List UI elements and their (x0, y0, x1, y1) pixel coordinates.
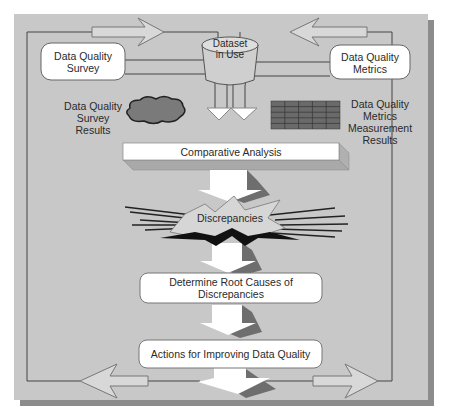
metrics-line2: Metrics (330, 63, 410, 75)
survey-results-line2: Survey (58, 112, 128, 124)
survey-line1: Data Quality (41, 50, 125, 62)
comparative-analysis-label: Comparative Analysis (123, 146, 339, 158)
dataset-label: Dataset in Use (202, 38, 258, 60)
survey-line2: Survey (41, 62, 125, 74)
metrics-results-line1: Data Quality (345, 98, 415, 110)
root-causes-label: Determine Root Causes of Discrepancies (140, 276, 322, 300)
dataset-line1: Dataset (202, 38, 258, 49)
metrics-results-line4: Results (345, 134, 415, 146)
root-causes-line2: Discrepancies (140, 288, 322, 300)
metrics-results-label: Data Quality Metrics Measurement Results (345, 98, 415, 146)
metrics-line1: Data Quality (330, 51, 410, 63)
metrics-results-grid-icon (271, 101, 340, 129)
root-causes-line1: Determine Root Causes of (140, 276, 322, 288)
actions-label: Actions for Improving Data Quality (139, 348, 322, 360)
survey-results-line1: Data Quality (58, 100, 128, 112)
survey-results-line3: Results (58, 124, 128, 136)
metrics-results-line3: Measurement (345, 122, 415, 134)
metrics-results-line2: Metrics (345, 110, 415, 122)
data-quality-process-diagram: Data Quality Survey Data Quality Metrics… (0, 0, 449, 420)
survey-results-label: Data Quality Survey Results (58, 100, 128, 136)
data-quality-survey-label: Data Quality Survey (41, 50, 125, 74)
discrepancies-label: Discrepancies (180, 212, 280, 224)
dataset-line2: in Use (202, 49, 258, 60)
survey-results-cloud-icon (127, 97, 185, 124)
data-quality-metrics-label: Data Quality Metrics (330, 51, 410, 75)
